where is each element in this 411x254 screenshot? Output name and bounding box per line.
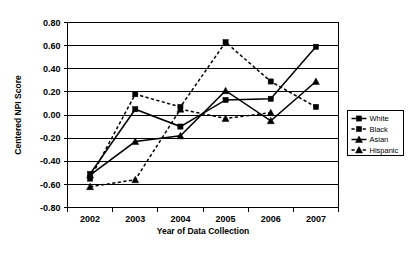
data-point-black (268, 79, 273, 84)
x-tick-label: 2002 (80, 214, 100, 224)
legend-label-black: Black (370, 125, 389, 134)
y-tick-label: 0.40 (43, 64, 61, 74)
data-point-white (268, 96, 273, 101)
legend-label-hispanic: Hispanic (370, 146, 399, 155)
data-point-white (133, 107, 138, 112)
y-tick-label: 0.60 (43, 41, 61, 51)
legend-swatch-marker-white (356, 116, 361, 121)
legend-swatch-marker-black (356, 126, 361, 131)
x-axis-title: Year of Data Collection (157, 226, 250, 236)
x-tick-label: 2007 (306, 214, 326, 224)
y-tick-label: -0.80 (40, 203, 61, 213)
y-tick-label: -0.60 (40, 180, 61, 190)
legend-label-white: White (370, 114, 389, 123)
legend-label-asian: Asian (370, 135, 389, 144)
x-tick-label: 2004 (170, 214, 190, 224)
x-tick-label: 2006 (261, 214, 281, 224)
y-tick-label: 0.80 (43, 18, 61, 28)
data-point-white (223, 97, 228, 102)
chart-legend: WhiteBlackAsianHispanic (348, 111, 404, 156)
y-tick-label: 0.00 (43, 110, 61, 120)
data-point-black (223, 40, 228, 45)
y-tick-label: -0.20 (40, 133, 61, 143)
data-point-white (178, 124, 183, 129)
x-tick-label: 2005 (216, 214, 236, 224)
data-point-white (313, 44, 318, 49)
chart-container: 0.800.600.400.200.00-0.20-0.40-0.60-0.80… (0, 0, 411, 254)
x-tick-label: 2003 (125, 214, 145, 224)
data-point-black (133, 92, 138, 97)
y-tick-label: -0.40 (40, 156, 61, 166)
data-point-black (313, 104, 318, 109)
y-tick-label: 0.20 (43, 87, 61, 97)
y-axis-title: Centered NPI Score (13, 75, 23, 155)
npi-score-line-chart: 0.800.600.400.200.00-0.20-0.40-0.60-0.80… (0, 0, 411, 254)
